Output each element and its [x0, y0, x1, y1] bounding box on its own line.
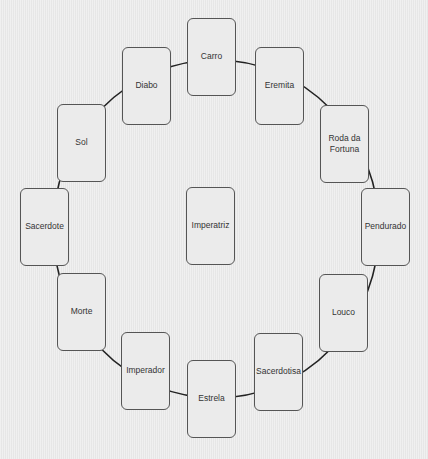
- card-label: Sacerdotisa: [256, 366, 301, 377]
- card-label: Morte: [71, 306, 93, 317]
- card-louco: Louco: [319, 274, 368, 352]
- card-imperador: Imperador: [121, 332, 170, 410]
- card-sol: Sol: [57, 104, 106, 182]
- card-label: Louco: [332, 307, 355, 318]
- card-label: Imperador: [126, 365, 165, 376]
- card-sacerdotisa: Sacerdotisa: [254, 333, 303, 411]
- card-pendurado: Pendurado: [361, 188, 410, 266]
- card-label: Eremita: [265, 80, 294, 91]
- card-label: Sol: [75, 137, 87, 148]
- card-diabo: Diabo: [122, 47, 171, 125]
- card-roda-da-fortuna: Roda da Fortuna: [320, 105, 369, 183]
- card-morte: Morte: [57, 273, 106, 351]
- card-eremita: Eremita: [255, 47, 304, 125]
- card-carro: Carro: [187, 18, 236, 96]
- diagram-canvas: Carro Eremita Roda da Fortuna Pendurado …: [0, 0, 428, 459]
- card-sacerdote: Sacerdote: [20, 188, 69, 266]
- card-estrela: Estrela: [187, 360, 236, 438]
- card-label: Pendurado: [365, 221, 407, 232]
- card-imperatriz-center: Imperatriz: [186, 187, 235, 265]
- card-label: Imperatriz: [192, 220, 230, 231]
- card-label: Sacerdote: [25, 221, 64, 232]
- card-label: Roda da Fortuna: [327, 133, 363, 156]
- card-label: Carro: [201, 51, 222, 62]
- card-label: Estrela: [198, 393, 224, 404]
- card-label: Diabo: [135, 80, 157, 91]
